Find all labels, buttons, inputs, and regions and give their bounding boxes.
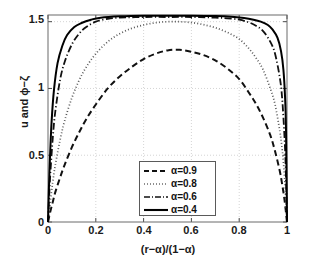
legend[interactable]: α=0.9 α=0.8 α=0.6 α=0.4	[139, 161, 216, 216]
plot-canvas	[0, 0, 314, 264]
legend-label-3: α=0.4	[171, 205, 197, 215]
legend-line-sample-dashdot	[143, 192, 169, 202]
legend-label-0: α=0.9	[171, 166, 197, 176]
legend-line-sample-solid	[143, 205, 169, 215]
legend-line-sample-dashed	[143, 166, 169, 176]
legend-item-1[interactable]: α=0.8	[140, 177, 215, 190]
legend-item-3[interactable]: α=0.4	[140, 203, 215, 216]
chart-figure: u and ϕ−ζ 1.5 1 0.5 0 0 0.2 0.4 0.6 0.8 …	[0, 0, 314, 264]
legend-label-1: α=0.8	[171, 179, 197, 189]
legend-line-sample-dotted	[143, 179, 169, 189]
legend-item-2[interactable]: α=0.6	[140, 190, 215, 203]
legend-item-0[interactable]: α=0.9	[140, 164, 215, 177]
legend-label-2: α=0.6	[171, 192, 197, 202]
